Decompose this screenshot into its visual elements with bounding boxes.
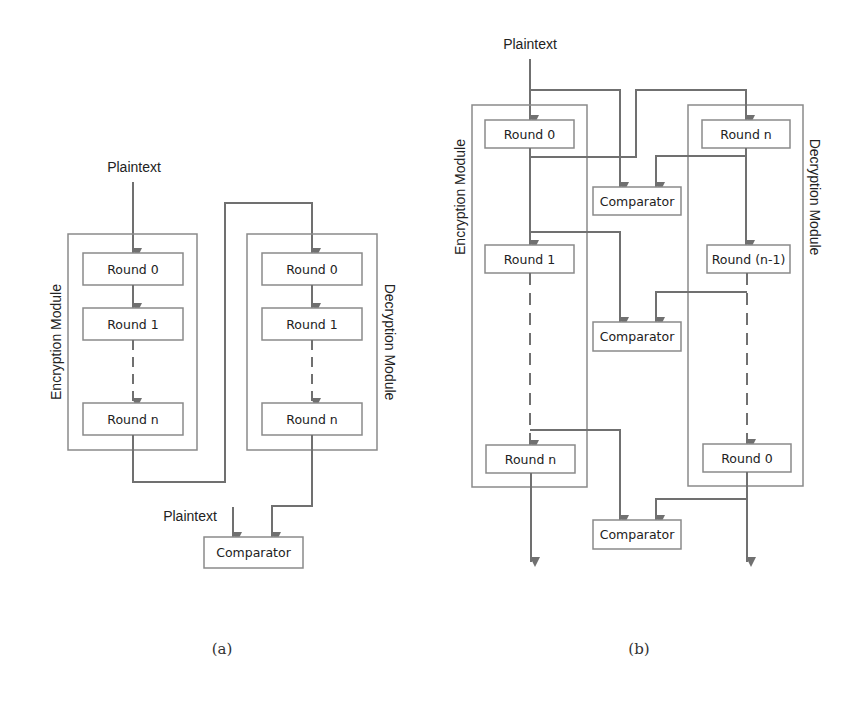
enc-round-label: Round n <box>107 412 158 427</box>
enc-round-label: Round 1 <box>107 317 158 332</box>
enc-round-label: Round 0 <box>107 262 159 277</box>
connector-dec-roundn-to-comparator-1 <box>656 156 746 187</box>
enc-round-label: Round 0 <box>504 127 556 142</box>
enc-round-label: Round n <box>505 452 556 467</box>
comparator-label: Comparator <box>216 545 291 560</box>
encryption-module-label: Encryption Module <box>452 139 468 255</box>
comparator-label: Comparator <box>600 329 675 344</box>
plaintext-reference-label: Plaintext <box>163 508 217 524</box>
caption-a: (a) <box>212 640 233 658</box>
caption-b: (b) <box>628 640 649 658</box>
decryption-module-label: Decryption Module <box>382 284 398 401</box>
diagram-canvas: Plaintext Encryption Module Round 0 Roun… <box>0 0 867 701</box>
diagram-a: Plaintext Encryption Module Round 0 Roun… <box>48 159 398 658</box>
plaintext-input-label: Plaintext <box>107 159 161 175</box>
decryption-module-label: Decryption Module <box>807 139 823 256</box>
dec-round-label: Round 0 <box>286 262 338 277</box>
dec-round-label: Round (n-1) <box>712 252 786 267</box>
dec-round-label: Round n <box>286 412 337 427</box>
dec-round-label: Round 0 <box>721 451 773 466</box>
connector-dec-round-n-1-to-comparator-2 <box>656 292 747 322</box>
diagram-b: Plaintext Encryption Module Decryption M… <box>452 36 823 658</box>
dec-round-label: Round n <box>720 127 771 142</box>
comparator-label: Comparator <box>600 194 675 209</box>
encryption-module-label: Encryption Module <box>48 284 64 400</box>
dec-round-label: Round 1 <box>286 317 337 332</box>
comparator-label: Comparator <box>600 527 675 542</box>
plaintext-input-label: Plaintext <box>503 36 557 52</box>
connector-dec-round0-to-comparator-3 <box>656 499 747 520</box>
connector-enc-to-comparator-3 <box>530 430 620 520</box>
connector-enc-to-dec <box>133 203 312 482</box>
enc-round-label: Round 1 <box>504 252 555 267</box>
